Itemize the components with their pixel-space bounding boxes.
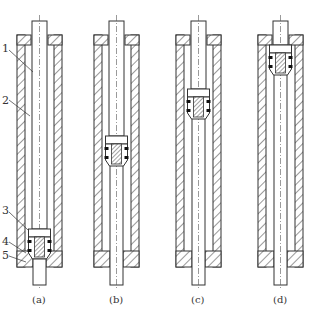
caption-b: (b) — [109, 294, 123, 305]
panel-a — [17, 15, 62, 290]
panel-b — [94, 15, 139, 290]
caption-a: (a) — [32, 294, 46, 305]
callout-1: 1 — [2, 42, 9, 55]
callout-2: 2 — [2, 94, 9, 107]
panel-d — [258, 15, 303, 290]
diagram-root: 1 2 3 4 5 (a) (b) (c) (d) — [0, 0, 317, 311]
callout-5: 5 — [2, 249, 9, 262]
cylinder-diagram: 1 2 3 4 5 (a) (b) (c) (d) — [0, 0, 317, 311]
callout-3: 3 — [2, 204, 9, 217]
caption-c: (c) — [191, 294, 205, 305]
callout-4: 4 — [2, 235, 9, 248]
panel-c — [176, 15, 221, 290]
caption-d: (d) — [273, 294, 287, 305]
